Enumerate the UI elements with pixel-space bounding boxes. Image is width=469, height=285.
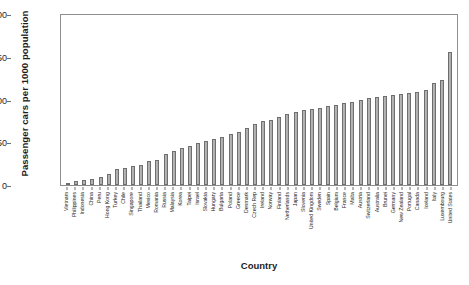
x-tick-label: Portugal bbox=[408, 192, 413, 211]
x-tick-mark bbox=[328, 187, 329, 190]
x-tick-cell: Vietnam bbox=[63, 187, 71, 257]
bar-cell bbox=[243, 15, 251, 185]
x-tick-label: Poland bbox=[228, 192, 233, 208]
bar-cell bbox=[316, 15, 324, 185]
y-axis-title: Passenger cars per 1000 population bbox=[19, 4, 30, 184]
x-tick-mark bbox=[361, 187, 362, 190]
x-tick-label: Malta bbox=[350, 192, 355, 205]
bar-cell bbox=[438, 15, 446, 185]
bar-cell bbox=[373, 15, 381, 185]
x-tick-cell: Italy bbox=[431, 187, 439, 257]
bar bbox=[318, 108, 322, 185]
x-tick-mark bbox=[91, 187, 92, 190]
x-tick-cell: Russia bbox=[161, 187, 169, 257]
bar-cell bbox=[113, 15, 121, 185]
x-tick-label: Hungary bbox=[212, 192, 217, 212]
bar bbox=[74, 181, 78, 185]
x-tick-mark bbox=[206, 187, 207, 190]
bar bbox=[147, 161, 151, 185]
x-tick-label: Turkey bbox=[114, 192, 119, 208]
bar-cell bbox=[259, 15, 267, 185]
x-tick-cell: Brunei bbox=[382, 187, 390, 257]
x-tick-cell: Greece bbox=[235, 187, 243, 257]
x-tick-cell: Portugal bbox=[406, 187, 414, 257]
x-tick-mark bbox=[451, 187, 452, 190]
x-tick-cell: Switzerland bbox=[365, 187, 373, 257]
x-axis-labels: VietnamPhilippinesIndonesiaChinaPeruHong… bbox=[60, 187, 458, 257]
bar-cell bbox=[446, 15, 454, 185]
x-tick-mark bbox=[83, 187, 84, 190]
x-tick-label: Spain bbox=[326, 192, 331, 205]
x-tick-cell: Slovakia bbox=[202, 187, 210, 257]
x-tick-label: Japan bbox=[293, 192, 298, 206]
x-tick-label: Denmark bbox=[244, 192, 249, 213]
x-tick-mark bbox=[410, 187, 411, 190]
x-tick-cell: Thailand bbox=[137, 187, 145, 257]
bar-cell bbox=[365, 15, 373, 185]
bar bbox=[294, 112, 298, 185]
x-tick-label: Bulgaria bbox=[220, 192, 225, 211]
bar-cell bbox=[186, 15, 194, 185]
bar bbox=[245, 128, 249, 185]
bar bbox=[334, 105, 338, 185]
x-tick-mark bbox=[271, 187, 272, 190]
x-tick-label: Peru bbox=[97, 192, 102, 203]
bar-cell bbox=[88, 15, 96, 185]
bar bbox=[139, 165, 143, 185]
bar bbox=[90, 179, 94, 185]
bar-cell bbox=[210, 15, 218, 185]
x-tick-cell: Malaysia bbox=[169, 187, 177, 257]
bar bbox=[196, 143, 200, 186]
bar-cell bbox=[381, 15, 389, 185]
x-tick-label: Norway bbox=[269, 192, 274, 210]
bar-cell bbox=[170, 15, 178, 185]
x-tick-label: Indonesia bbox=[81, 192, 86, 215]
x-tick-mark bbox=[107, 187, 108, 190]
x-tick-mark bbox=[393, 187, 394, 190]
bar-cell bbox=[72, 15, 80, 185]
x-tick-mark bbox=[369, 187, 370, 190]
bar-cell bbox=[129, 15, 137, 185]
bar bbox=[212, 139, 216, 185]
x-tick-cell: New Zealand bbox=[398, 187, 406, 257]
x-tick-mark bbox=[336, 187, 337, 190]
x-tick-label: Slovenia bbox=[301, 192, 306, 212]
x-tick-mark bbox=[442, 187, 443, 190]
x-tick-cell: Malta bbox=[349, 187, 357, 257]
x-tick-cell: Poland bbox=[226, 187, 234, 257]
x-tick-mark bbox=[156, 187, 157, 190]
x-tick-label: France bbox=[342, 192, 347, 208]
bar bbox=[375, 97, 379, 185]
bar-cell bbox=[308, 15, 316, 185]
x-tick-mark bbox=[246, 187, 247, 190]
bar bbox=[285, 114, 289, 185]
x-tick-label: Philippines bbox=[73, 192, 78, 217]
x-tick-label: Korea bbox=[179, 192, 184, 206]
y-tick-mark bbox=[7, 186, 11, 187]
y-tick-mark bbox=[7, 143, 11, 144]
x-tick-mark bbox=[214, 187, 215, 190]
bar-cell bbox=[405, 15, 413, 185]
x-tick-label: Luxembourg bbox=[440, 192, 445, 221]
x-tick-mark bbox=[238, 187, 239, 190]
x-tick-cell: Turkey bbox=[112, 187, 120, 257]
bar-chart-figure: Passenger cars per 1000 population 02505… bbox=[0, 0, 469, 285]
bar-cell bbox=[430, 15, 438, 185]
x-tick-mark bbox=[426, 187, 427, 190]
x-tick-cell: Hungary bbox=[210, 187, 218, 257]
x-tick-label: Switzerland bbox=[367, 192, 372, 219]
bar-cell bbox=[121, 15, 129, 185]
x-tick-mark bbox=[418, 187, 419, 190]
bar-cell bbox=[422, 15, 430, 185]
bar bbox=[415, 92, 419, 185]
bar bbox=[399, 94, 403, 185]
bar-cell bbox=[80, 15, 88, 185]
x-tick-mark bbox=[140, 187, 141, 190]
bar bbox=[310, 109, 314, 186]
bar bbox=[391, 95, 395, 185]
x-tick-cell: Japan bbox=[292, 187, 300, 257]
x-tick-label: Thailand bbox=[138, 192, 143, 212]
x-tick-label: Ireland bbox=[261, 192, 266, 208]
bar-cell bbox=[292, 15, 300, 185]
x-tick-cell: Austria bbox=[357, 187, 365, 257]
